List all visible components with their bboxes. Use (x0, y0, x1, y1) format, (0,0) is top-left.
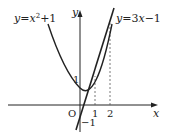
y-axis-label: y (71, 6, 79, 19)
function-graph: y=x2+1 y=3x−1 y x O 1 2 1 −1 (0, 0, 169, 138)
origin-label: O (68, 108, 76, 119)
y-tick-1: 1 (73, 74, 79, 85)
line-label: y=3x−1 (115, 12, 161, 25)
x-tick-2: 2 (107, 108, 113, 119)
parabola-curve-precise (49, 8, 115, 88)
y-intercept-label: −1 (81, 117, 96, 128)
curve-label: y=x2+1 (13, 12, 56, 25)
x-axis-label: x (153, 107, 160, 120)
y-axis-arrow-icon (78, 10, 83, 17)
